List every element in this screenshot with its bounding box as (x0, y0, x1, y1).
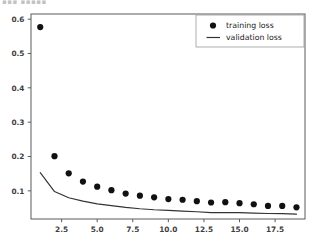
training-loss-point (94, 184, 100, 190)
x-tick-label: 7.5 (126, 225, 139, 234)
y-tick-label: 0.2 (11, 152, 24, 161)
training-loss-point (80, 178, 86, 184)
legend-label-training-loss: training loss (226, 21, 274, 30)
y-axis: 0.10.20.30.40.50.6 (11, 15, 31, 196)
training-loss-point (151, 194, 157, 200)
training-loss-point (137, 193, 143, 199)
y-tick-label: 0.4 (11, 84, 24, 93)
training-loss-point (179, 197, 185, 203)
training-loss-point (208, 199, 214, 205)
validation-loss-line (40, 173, 296, 215)
x-axis: 2.55.07.510.012.515.017.5 (55, 219, 284, 234)
training-loss-point (123, 190, 129, 196)
legend-marker-training-loss (210, 22, 216, 28)
loss-chart-figure: 0.10.20.30.40.50.6 2.55.07.510.012.515.0… (0, 0, 312, 250)
training-loss-point (251, 201, 257, 207)
chart-screenshot: ▪▪▪ ▪▪▪▪▪ ▪▪ 0.10.20.30.40.50.6 2.55.07.… (0, 0, 312, 250)
training-loss-markers (37, 24, 299, 210)
x-tick-label: 17.5 (266, 225, 284, 234)
training-loss-point (293, 204, 299, 210)
training-loss-point (236, 200, 242, 206)
training-loss-point (165, 196, 171, 202)
x-tick-label: 2.5 (55, 225, 68, 234)
y-tick-label: 0.5 (11, 49, 24, 58)
training-loss-point (222, 199, 228, 205)
training-loss-point (265, 203, 271, 209)
plot-svg: 0.10.20.30.40.50.6 2.55.07.510.012.515.0… (0, 0, 312, 250)
training-loss-point (37, 24, 43, 30)
x-tick-label: 12.5 (195, 225, 213, 234)
x-tick-label: 5.0 (91, 225, 104, 234)
training-loss-point (66, 170, 72, 176)
training-loss-point (279, 203, 285, 209)
training-loss-point (51, 153, 57, 159)
x-tick-label: 10.0 (159, 225, 177, 234)
legend-box (196, 15, 304, 47)
legend-label-validation-loss: validation loss (226, 33, 282, 42)
y-tick-label: 0.1 (11, 187, 24, 196)
training-loss-point (194, 198, 200, 204)
training-loss-point (108, 187, 114, 193)
y-tick-label: 0.3 (11, 118, 24, 127)
y-tick-label: 0.6 (11, 15, 24, 24)
x-tick-label: 15.0 (230, 225, 248, 234)
legend[interactable]: training loss validation loss (196, 15, 304, 47)
